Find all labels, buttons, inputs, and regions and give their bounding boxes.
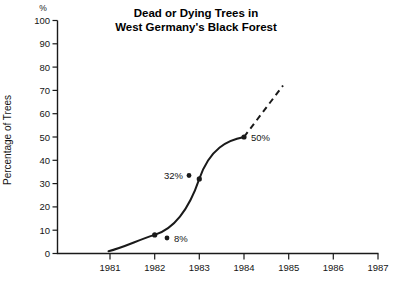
x-tick-label: 1981 <box>99 262 120 273</box>
x-tick-label: 1982 <box>144 262 165 273</box>
x-tick-label: 1986 <box>323 262 344 273</box>
y-tick-label: 80 <box>39 62 50 73</box>
data-label-50-percent: 50% <box>251 132 271 143</box>
y-axis-title: Percentage of Trees <box>2 95 13 185</box>
x-tick-label: 1984 <box>233 262 254 273</box>
y-tick-label: 100 <box>34 15 50 26</box>
data-point-marker <box>152 232 157 237</box>
line-chart: Dead or Dying Trees in West Germany's Bl… <box>0 0 395 289</box>
chart-title-line-1: Dead or Dying Trees in <box>134 7 259 19</box>
x-axis-ticks <box>110 254 378 260</box>
chart-title-line-2: West Germany's Black Forest <box>115 21 277 33</box>
data-point-marker <box>197 176 202 181</box>
axis-lines <box>58 21 379 254</box>
data-label-32-percent: 32% <box>164 170 184 181</box>
y-tick-label: 10 <box>39 225 50 236</box>
y-tick-label: 60 <box>39 108 50 119</box>
x-axis-tick-labels: 1981 1982 1983 1984 1985 1986 1987 <box>99 262 388 273</box>
y-axis-tick-labels: 100 90 80 70 60 50 40 30 20 10 0 <box>34 15 50 259</box>
data-curve-projection <box>244 86 283 138</box>
y-tick-label: 20 <box>39 201 50 212</box>
y-tick-label: 30 <box>39 178 50 189</box>
y-tick-label: 50 <box>39 132 50 143</box>
y-axis-ticks <box>53 21 58 254</box>
data-label-bullet <box>187 173 192 178</box>
y-tick-label: 0 <box>45 248 50 259</box>
y-tick-label: 70 <box>39 85 50 96</box>
data-point-marker <box>241 134 246 139</box>
y-tick-label: 90 <box>39 38 50 49</box>
y-axis-unit: % <box>39 3 47 13</box>
y-tick-label: 40 <box>39 155 50 166</box>
data-label-bullet <box>165 236 170 241</box>
data-label-8-percent: 8% <box>174 233 188 244</box>
x-tick-label: 1985 <box>278 262 299 273</box>
x-tick-label: 1987 <box>367 262 388 273</box>
chart-container: Dead or Dying Trees in West Germany's Bl… <box>0 0 395 289</box>
x-tick-label: 1983 <box>189 262 210 273</box>
